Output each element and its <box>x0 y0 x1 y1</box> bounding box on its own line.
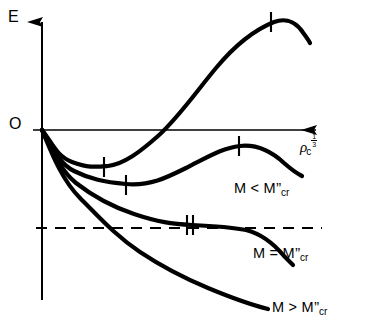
curve-1-subscript: cr <box>281 187 289 198</box>
curve-2-critical: M <box>282 245 294 261</box>
curve-m-less-than-critical <box>42 130 302 184</box>
y-axis-label: E <box>8 9 19 25</box>
curve-m-far-below-critical <box>42 20 310 166</box>
curve-label-m-equals-critical: M = M’’cr <box>253 246 308 263</box>
curve-1-relation: < <box>251 180 260 196</box>
curve-3-symbol: M <box>272 299 284 315</box>
plot-canvas <box>0 0 367 332</box>
curve-3-relation: > <box>289 299 298 315</box>
x-axis-label: ρc13 <box>300 133 317 157</box>
curve-1-symbol: M <box>234 180 246 196</box>
x-axis-label-exponent: 13 <box>311 133 317 149</box>
curve-1-critical: M <box>263 180 275 196</box>
curve-3-subscript: cr <box>319 306 327 317</box>
curve-3-critical: M <box>301 299 313 315</box>
curve-2-symbol: M <box>253 245 265 261</box>
curve-label-m-greater-than-critical: M > M’’cr <box>272 300 327 317</box>
curve-label-m-less-than-critical: M < M’’cr <box>234 181 289 198</box>
exponent-numerator: 1 <box>311 133 317 141</box>
origin-label: O <box>9 116 21 132</box>
figure-container: E O ρc13 M < M’’cr M = M’’cr M > M’’cr <box>0 0 367 332</box>
curve-2-relation: = <box>270 245 279 261</box>
extremum-markers <box>104 12 271 235</box>
curve-2-subscript: cr <box>300 252 308 263</box>
exponent-denominator: 3 <box>311 141 317 148</box>
